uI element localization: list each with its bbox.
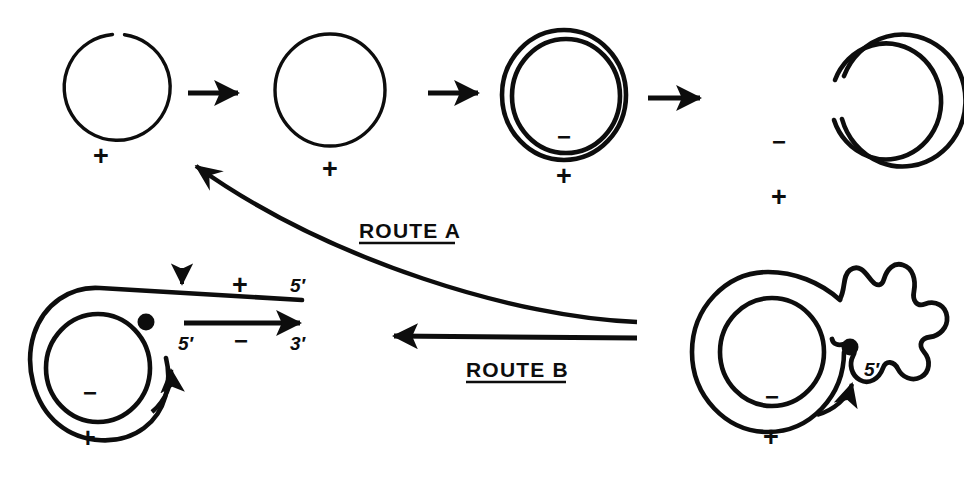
- step-2-plus-label: +: [322, 156, 338, 183]
- step-3-plus-label: +: [556, 163, 572, 190]
- ds-outer-plus-strand-nicked: [842, 35, 964, 167]
- outer-plus-strand-tail: [30, 288, 302, 440]
- bottom-right-tail-5prime: 5′: [864, 360, 879, 379]
- step-4-minus-label: −: [772, 130, 786, 154]
- bottom-left-top-strand-plus: +: [232, 272, 248, 299]
- ss-circle-closed: [275, 34, 385, 146]
- bottom-right-rolling-circle: [692, 264, 947, 432]
- ss-circle-open-arc: [64, 35, 170, 141]
- bottom-left-bottom-strand-3prime: 3′: [290, 334, 305, 353]
- bottom-left-bottom-strand-5prime: 5′: [178, 334, 193, 353]
- origin-dot: [138, 314, 155, 331]
- diagram-graphics: [0, 0, 964, 477]
- step-1-open-ss-circle: [64, 35, 170, 141]
- step-4-plus-label: +: [771, 184, 787, 211]
- origin-dot: [842, 339, 859, 356]
- bottom-right-circle-plus: +: [763, 424, 779, 451]
- step-4-nicked-ds-circle: [834, 35, 964, 167]
- bottom-left-circle-plus: +: [80, 425, 96, 452]
- route-a-label: ROUTE A: [359, 220, 461, 241]
- route-b-arrow: [394, 336, 637, 338]
- figure-canvas: + + − + − + ROUTE A ROUTE B + 5′ 5′ − 3′…: [0, 0, 964, 477]
- bottom-left-top-strand-5prime: 5′: [290, 276, 305, 295]
- displaced-ss-tail-coil: [832, 264, 947, 381]
- bottom-left-circle-minus: −: [83, 381, 97, 405]
- inner-minus-circle: [46, 314, 150, 422]
- step-1-plus-label: +: [93, 143, 109, 170]
- step-3-minus-label: −: [557, 125, 571, 149]
- route-b-line: [394, 336, 637, 338]
- bottom-left-bottom-strand-minus: −: [234, 329, 248, 353]
- bottom-right-circle-minus: −: [765, 385, 779, 409]
- route-b-label: ROUTE B: [466, 359, 569, 380]
- step-2-closed-ss-circle: [275, 34, 385, 146]
- bottom-left-rolling-circle: [30, 268, 302, 440]
